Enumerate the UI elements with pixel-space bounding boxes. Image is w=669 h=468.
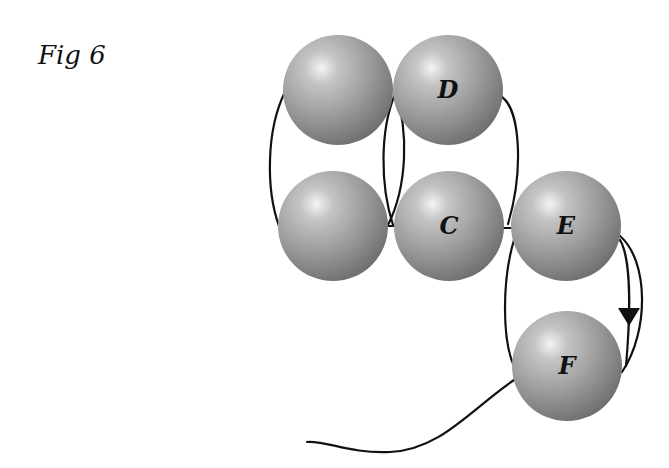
thread-e-f-right-outer [620, 236, 642, 372]
thread-tail [307, 380, 514, 452]
thread-e-f-right-inner [620, 240, 629, 366]
bead-label-d: D [437, 75, 459, 104]
bead-label-c: C [439, 211, 458, 240]
beading-diagram: D C E F [0, 0, 669, 468]
bead-label-f: F [557, 351, 577, 380]
bead-top-left [283, 35, 393, 145]
arrow-down-icon [618, 308, 640, 326]
bead-mid-left [278, 171, 388, 281]
thread-e-f-left-loop [505, 240, 514, 366]
bead-label-e: E [556, 211, 576, 240]
